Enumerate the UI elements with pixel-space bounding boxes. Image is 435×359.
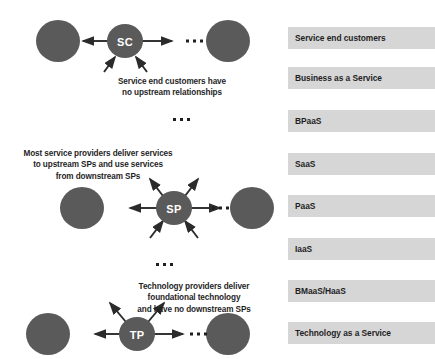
legend-label: PaaS: [295, 201, 315, 211]
sp-peer-node-right: [230, 187, 274, 229]
legend-label: Business as a Service: [295, 73, 382, 83]
legend-item-bpaas: BPaaS: [288, 110, 435, 132]
legend-label: BPaaS: [295, 116, 321, 126]
vertical-ellipsis-upper: [173, 118, 190, 121]
caption-technology-providers: Technology providers deliver foundationa…: [118, 281, 270, 315]
tp-peer-node-right: [206, 313, 250, 355]
legend-label: Technology as a Service: [295, 328, 391, 338]
tp-node-label: TP: [130, 329, 145, 341]
legend-item-bmaas-haas: BMaaS/HaaS: [288, 280, 435, 302]
sp-arrow-down-left: [150, 221, 163, 238]
legend-item-service-end-customers: Service end customers: [288, 27, 435, 49]
sc-row-ellipsis: [186, 40, 203, 43]
sp-arrow-down-right: [185, 221, 198, 238]
vertical-ellipsis-lower: [156, 263, 173, 266]
legend-label: SaaS: [295, 159, 315, 169]
diagram-area: SC SP: [0, 0, 285, 359]
legend-item-business-as-a-service: Business as a Service: [288, 67, 435, 89]
sc-peer-node-left: [36, 20, 80, 62]
legend-item-saas: SaaS: [288, 153, 435, 175]
legend-item-paas: PaaS: [288, 195, 435, 217]
tp-row-ellipsis: [190, 333, 207, 336]
legend-label: Service end customers: [295, 33, 386, 43]
sp-node-label: SP: [166, 203, 181, 215]
legend-column: Service end customers Business as a Serv…: [288, 0, 435, 359]
legend-label: BMaaS/HaaS: [295, 286, 346, 296]
tp-peer-node-left: [26, 313, 70, 355]
tier-sc-group: SC: [36, 20, 250, 72]
tier-sp-group: SP: [60, 179, 274, 238]
caption-service-providers: Most service providers deliver services …: [8, 148, 188, 182]
sc-peer-node-right: [206, 20, 250, 62]
sp-peer-node-left: [60, 187, 104, 229]
legend-label: IaaS: [295, 244, 312, 254]
sp-row-ellipsis: [212, 207, 229, 210]
sc-arrow-down-left: [104, 57, 115, 72]
caption-service-end-customers: Service end customers have no upstream r…: [92, 76, 252, 99]
legend-item-technology-as-a-service: Technology as a Service: [288, 322, 435, 344]
sc-node-label: SC: [117, 36, 133, 48]
legend-item-iaas: IaaS: [288, 238, 435, 260]
sc-arrow-down-right: [136, 57, 147, 72]
